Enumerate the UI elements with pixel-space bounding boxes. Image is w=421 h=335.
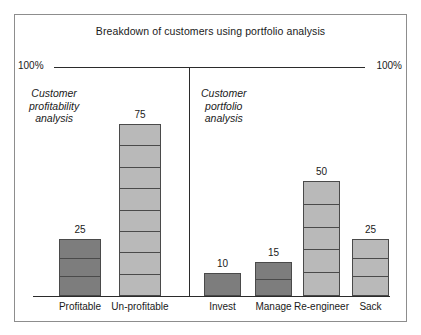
bar-segment <box>256 280 291 296</box>
bar-segment <box>120 189 160 210</box>
bar-re-engineer[interactable] <box>303 181 340 296</box>
bar-value-label: 50 <box>303 166 340 177</box>
bar-invest[interactable] <box>204 273 241 296</box>
category-label-sack: Sack <box>331 301 411 312</box>
bar-value-label: 15 <box>255 247 292 258</box>
bar-segment <box>120 146 160 167</box>
bar-segment <box>120 232 160 253</box>
bar-manage[interactable] <box>255 262 292 296</box>
bar-segment <box>353 259 388 278</box>
bar-value-label: 25 <box>59 224 101 235</box>
bar-segment <box>60 277 100 295</box>
bar-value-label: 25 <box>352 224 389 235</box>
bar-segment <box>120 275 160 295</box>
bar-segment <box>304 205 339 228</box>
bar-segment <box>120 125 160 146</box>
bar-segment <box>205 274 240 295</box>
bar-segment <box>120 168 160 189</box>
bar-sack[interactable] <box>352 239 389 296</box>
bar-segment <box>256 263 291 280</box>
bar-value-label: 10 <box>204 258 241 269</box>
bar-value-label: 75 <box>119 109 161 120</box>
bar-segment <box>60 240 100 259</box>
bar-segment <box>304 250 339 273</box>
category-label-un-profitable: Un-profitable <box>100 301 180 312</box>
chart-figure: Breakdown of customers using portfolio a… <box>14 14 407 322</box>
bar-segment <box>304 228 339 251</box>
bar-segment <box>304 273 339 295</box>
plot-area: 25Profitable75Un-profitable10Invest15Man… <box>15 15 406 321</box>
bar-segment <box>353 277 388 295</box>
bar-segment <box>304 182 339 205</box>
bar-un-profitable[interactable] <box>119 124 161 296</box>
bar-segment <box>353 240 388 259</box>
bar-segment <box>60 259 100 278</box>
bar-segment <box>120 211 160 232</box>
bar-profitable[interactable] <box>59 239 101 296</box>
bar-segment <box>120 253 160 274</box>
